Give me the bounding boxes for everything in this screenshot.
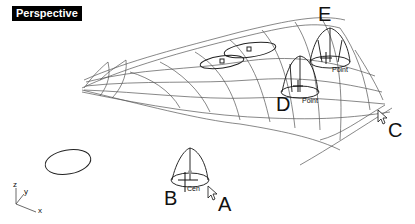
surface-wireframe <box>0 0 415 224</box>
perspective-viewport[interactable]: Perspective <box>0 0 415 224</box>
callout-b: B <box>164 188 177 208</box>
callout-d: D <box>276 94 290 114</box>
callout-c: C <box>388 120 402 140</box>
osnap-point-label-d: Point <box>302 97 318 104</box>
callout-e: E <box>318 4 331 24</box>
axis-z-label: z <box>13 181 17 189</box>
osnap-point-label-e: Point <box>332 66 348 73</box>
axis-y-label: y <box>24 188 28 196</box>
osnap-cen-label: Cen <box>187 185 200 192</box>
callout-a: A <box>218 194 231 214</box>
axis-x-label: x <box>38 207 42 215</box>
